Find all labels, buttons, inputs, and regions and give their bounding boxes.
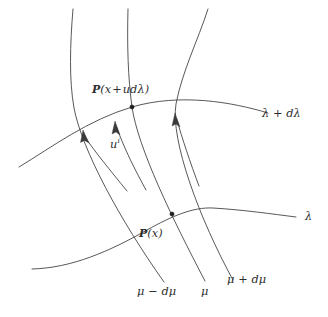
figure-canvas: P(x+udλ) P(x) ui λ + dλ λ μ − dμ μ μ + d… xyxy=(0,0,328,317)
label-curve-lambda: λ xyxy=(305,211,312,222)
tangent-vector-arrow-left-shaft xyxy=(85,137,127,191)
curve-lambda xyxy=(32,208,296,269)
label-curve-mu-minus-dmu: μ − dμ xyxy=(137,286,176,297)
vector-field-superscript: i xyxy=(117,136,119,145)
arrow-head-icon xyxy=(112,121,120,135)
label-point-upper: P(x+udλ) xyxy=(92,84,149,96)
tangent-vector-arrow-middle-shaft xyxy=(117,128,146,190)
label-vector-field: ui xyxy=(110,137,120,150)
arrow-head-icon xyxy=(81,130,90,143)
tangent-vector-arrow-middle xyxy=(112,121,146,190)
paren-close: ) xyxy=(158,227,163,240)
label-curve-mu-plus-dmu: μ + dμ xyxy=(227,274,266,285)
point-marker-upper xyxy=(130,105,134,109)
label-curve-mu: μ xyxy=(201,286,208,297)
label-point-lower: P(x) xyxy=(139,228,163,240)
point-marker-lower xyxy=(170,212,174,216)
curve-mu xyxy=(128,9,205,281)
label-curve-lambda-plus-dlambda: λ + dλ xyxy=(262,108,301,119)
plus-sign: + xyxy=(111,83,122,96)
tangent-vector-arrow-left xyxy=(81,130,128,191)
paren-close: ) xyxy=(145,83,150,96)
curve-lambda-plus-dlambda xyxy=(19,100,268,167)
argument-udlambda: udλ xyxy=(123,83,145,96)
tangent-vector-arrow-right xyxy=(172,113,199,186)
diagram-svg xyxy=(0,0,328,317)
